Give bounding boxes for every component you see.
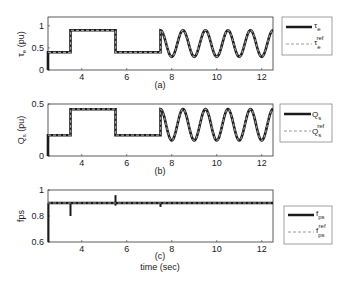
panel-a-ylabel: τe (pu)	[16, 31, 27, 56]
svg-text:1: 1	[39, 185, 44, 195]
svg-text:4: 4	[79, 158, 84, 168]
svg-text:8: 8	[169, 244, 174, 254]
panel-b-chart: 468101200.5	[31, 99, 273, 168]
svg-text:0: 0	[39, 151, 44, 161]
svg-text:0: 0	[39, 65, 44, 75]
svg-text:8: 8	[169, 158, 174, 168]
svg-text:0.8: 0.8	[31, 211, 44, 221]
svg-text:12: 12	[257, 72, 267, 82]
svg-text:12: 12	[257, 244, 267, 254]
svg-text:4: 4	[79, 72, 84, 82]
figure: 468101200.51 (a) τe (pu) τe τeref 468101…	[0, 0, 351, 289]
svg-text:6: 6	[124, 158, 129, 168]
svg-text:4: 4	[79, 244, 84, 254]
svg-text:6: 6	[124, 72, 129, 82]
svg-text:0.5: 0.5	[31, 43, 44, 53]
panel-b-label: (b)	[155, 166, 166, 176]
panel-b-ylabel: Qs (pu)	[16, 116, 27, 145]
legend-b: Qs Qsref	[280, 104, 332, 142]
legend-c: fps fpsref	[284, 206, 332, 244]
panel-c-ylabel: fps	[16, 210, 26, 223]
svg-text:10: 10	[212, 72, 222, 82]
svg-text:12: 12	[257, 158, 267, 168]
svg-text:0.5: 0.5	[31, 99, 44, 109]
panel-c-chart: 46810120.60.81	[31, 185, 273, 254]
svg-text:10: 10	[212, 244, 222, 254]
panel-c-label: (c)	[155, 251, 166, 261]
svg-text:10: 10	[212, 158, 222, 168]
legend-a: τe τeref	[282, 17, 332, 55]
panel-a-label: (a)	[155, 80, 166, 90]
svg-text:1: 1	[39, 21, 44, 31]
svg-text:0.6: 0.6	[31, 237, 44, 247]
svg-text:8: 8	[169, 72, 174, 82]
panel-c-xlabel: time (sec)	[140, 262, 180, 272]
svg-text:6: 6	[124, 244, 129, 254]
panel-a-chart: 468101200.51	[31, 17, 273, 82]
